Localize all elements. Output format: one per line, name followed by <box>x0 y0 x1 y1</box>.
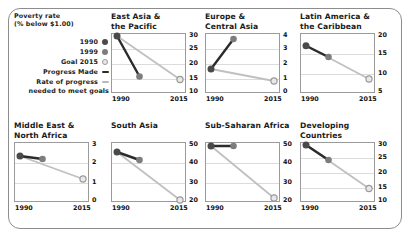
progress-made-line <box>117 152 140 160</box>
y-axis-tick-label: 15 <box>378 50 387 56</box>
panel-title-line2: North Africa <box>14 131 89 141</box>
filled-gray-circle-icon <box>101 49 109 56</box>
legend-item-label: Rate of progress <box>36 78 98 86</box>
panel-title: Sub-Saharan Africa <box>205 121 289 140</box>
light-dash-icon <box>101 81 109 83</box>
rate-needed-line <box>117 36 180 80</box>
rate-needed-line <box>211 69 274 81</box>
data-point-1999 <box>136 73 143 80</box>
panel-title-line1: East Asia & <box>111 12 186 22</box>
legend-items: 1990 1999 Goal 2015 Progress Made Rate o… <box>14 37 109 95</box>
y-axis-tick-label: 30 <box>189 179 198 185</box>
panel-title: East Asia &the Pacific <box>111 12 186 31</box>
series-layer <box>300 33 375 93</box>
series-layer <box>14 142 89 202</box>
dark-dash-icon <box>101 71 109 73</box>
panel-title: DevelopingCountries <box>300 121 375 140</box>
legend-item-goal-2015: Goal 2015 <box>14 57 109 67</box>
legend-item-1990: 1990 <box>14 37 109 47</box>
y-axis-tick-label: 4 <box>283 32 287 38</box>
y-axis-tick-label: 15 <box>189 75 198 81</box>
series-layer <box>205 33 280 93</box>
series-layer <box>205 142 280 202</box>
legend-item-rate-of-progress: Rate of progress <box>14 77 109 87</box>
panel-title-line2: Central Asia <box>205 22 280 32</box>
data-point-goal-2015 <box>80 176 86 182</box>
panel-4: Middle East &North Africa012319902015 <box>14 121 89 202</box>
panel-title-line1: Europe & <box>205 12 280 22</box>
progress-made-line <box>211 39 234 69</box>
data-point-goal-2015 <box>177 77 183 83</box>
panel-title: Latin America &the Caribbean <box>300 12 375 31</box>
legend-item-label: Progress Made <box>43 68 98 76</box>
y-axis-tick-label: 20 <box>189 60 198 66</box>
legend-item-label: 1999 <box>80 48 98 56</box>
panel-title: Europe &Central Asia <box>205 12 280 31</box>
panel-2: Europe &Central Asia0123419902015 <box>205 12 280 93</box>
y-axis-tick-label: 25 <box>378 154 387 160</box>
x-axis-tick-label: 1990 <box>112 96 130 102</box>
poverty-rate-infographic: Poverty rate (% below $1.00) 1990 1999 G… <box>0 0 414 239</box>
legend-item-1999: 1999 <box>14 47 109 57</box>
panel-5: South Asia 2030405019902015 <box>111 121 186 202</box>
plot-area: 0123419902015 <box>205 33 280 93</box>
y-axis-tick-label: 10 <box>378 197 387 203</box>
panel-title-line1: Sub-Saharan Africa <box>205 121 289 131</box>
panel-title: South Asia <box>111 121 186 140</box>
y-axis-tick-label: 1 <box>283 75 287 81</box>
data-point-1990 <box>208 143 215 150</box>
y-axis-tick-label: 30 <box>378 141 387 147</box>
y-axis-tick-label: 5 <box>378 88 382 94</box>
y-axis-tick-label: 2 <box>283 60 287 66</box>
y-axis-tick-label: 40 <box>283 159 292 165</box>
x-axis-tick-label: 1990 <box>301 205 319 211</box>
plot-area: 510152019902015 <box>300 33 375 93</box>
y-axis-tick-label: 10 <box>189 88 198 94</box>
panel-title-line2 <box>205 131 289 141</box>
panel-title-line2: the Pacific <box>111 22 186 32</box>
rate-needed-line <box>20 156 83 179</box>
legend-title-line2: (% below $1.00) <box>14 20 109 28</box>
data-point-1999 <box>39 156 46 163</box>
data-point-goal-2015 <box>366 186 372 192</box>
data-point-1999 <box>136 157 143 164</box>
data-point-1990 <box>303 142 310 149</box>
x-axis-tick-label: 1990 <box>206 96 224 102</box>
y-axis-tick-label: 15 <box>378 184 387 190</box>
panel-title-line2: the Caribbean <box>300 22 375 32</box>
panel-1: East Asia &the Pacific101520253019902015 <box>111 12 186 93</box>
panel-title-line1: Middle East & <box>14 121 89 131</box>
panel-title-line1: Developing <box>300 121 375 131</box>
progress-made-line <box>306 145 329 160</box>
legend-item-progress-made: Progress Made <box>14 67 109 77</box>
x-axis-tick-label: 2015 <box>359 205 377 211</box>
data-point-1990 <box>17 153 24 160</box>
y-axis-tick-label: 0 <box>283 88 287 94</box>
panel-6: Sub-Saharan Africa 2030405019902015 <box>205 121 289 202</box>
panel-title-line2: Countries <box>300 131 375 141</box>
y-axis-tick-label: 40 <box>189 159 198 165</box>
data-point-1999 <box>325 157 332 164</box>
rate-needed-line <box>117 152 180 200</box>
y-axis-tick-label: 25 <box>189 45 198 51</box>
y-axis-tick-label: 2 <box>92 159 96 165</box>
x-axis-tick-label: 2015 <box>170 96 188 102</box>
rate-needed-line <box>211 146 274 198</box>
panel-title-line1: Latin America & <box>300 12 375 22</box>
legend-item-label: Goal 2015 <box>61 58 98 66</box>
panel-title: Middle East &North Africa <box>14 121 89 140</box>
x-axis-tick-label: 1990 <box>301 96 319 102</box>
series-layer <box>111 142 186 202</box>
y-axis-tick-label: 3 <box>283 45 287 51</box>
x-axis-tick-label: 2015 <box>73 205 91 211</box>
data-point-goal-2015 <box>366 76 372 82</box>
y-axis-tick-label: 20 <box>378 32 387 38</box>
legend-footnote: needed to meet goals <box>14 87 109 95</box>
panel-title-line2 <box>111 131 186 141</box>
data-point-goal-2015 <box>271 195 277 201</box>
y-axis-tick-label: 50 <box>189 141 198 147</box>
progress-made-line <box>306 46 329 57</box>
panel-7: DevelopingCountries101520253019902015 <box>300 121 375 202</box>
series-layer <box>111 33 186 93</box>
data-point-1999 <box>230 36 237 43</box>
